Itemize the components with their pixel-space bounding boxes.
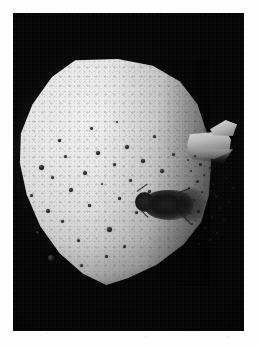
specimen-shading	[17, 59, 211, 285]
specimen-pore	[118, 197, 121, 200]
debris-speck	[201, 191, 203, 193]
specimen-pore	[88, 204, 91, 207]
specimen-pore	[105, 255, 108, 258]
debris-speck	[191, 223, 193, 225]
debris-speck	[199, 163, 202, 166]
debris-speck	[225, 177, 227, 179]
debris-speck	[196, 180, 199, 183]
debris-speck	[198, 243, 200, 245]
debris-speck	[187, 159, 189, 161]
specimen-pore	[69, 188, 73, 192]
specimen-pore	[123, 245, 126, 248]
debris-speck	[221, 161, 223, 163]
debris-speck	[212, 183, 214, 185]
debris-speck	[190, 170, 192, 172]
specimen-pore	[77, 239, 80, 242]
specimen-pore	[58, 139, 61, 142]
specimen-pore	[113, 163, 116, 166]
debris-trail	[185, 153, 241, 249]
photographic-plate	[13, 13, 244, 331]
specimen-pore	[61, 220, 64, 223]
specimen-pore	[141, 159, 145, 163]
scanned-page: bright porous rounded-polygonal body wit…	[0, 0, 260, 347]
debris-speck	[204, 227, 206, 229]
debris-speck	[194, 155, 196, 157]
debris-speck	[219, 207, 221, 209]
debris-speck	[211, 216, 213, 218]
specimen-description: bright porous rounded-polygonal body wit…	[0, 0, 1, 1]
debris-speck	[209, 167, 211, 169]
specimen-pore	[107, 227, 112, 232]
specimen-pore	[153, 135, 156, 138]
specimen-pore	[90, 127, 93, 130]
specimen-pore	[129, 179, 132, 182]
specimen-pore	[96, 151, 100, 155]
debris-speck	[203, 174, 205, 176]
specimen-group	[17, 59, 211, 285]
debris-speck	[232, 187, 234, 189]
debris-speck	[228, 201, 230, 203]
specimen-pore	[39, 165, 44, 170]
debris-speck	[193, 199, 195, 201]
debris-speck	[188, 187, 190, 189]
debris-speck	[215, 195, 218, 198]
debris-speck	[197, 210, 200, 213]
debris-speck	[223, 219, 225, 221]
specimen-pore	[125, 145, 129, 149]
debris-speck	[209, 239, 211, 241]
plate-caption	[0, 0, 1, 1]
specimen-pore	[51, 176, 54, 179]
debris-speck	[206, 203, 208, 205]
specimen-pore	[36, 231, 39, 234]
debris-speck	[216, 232, 218, 234]
blemish-leg	[137, 183, 148, 192]
